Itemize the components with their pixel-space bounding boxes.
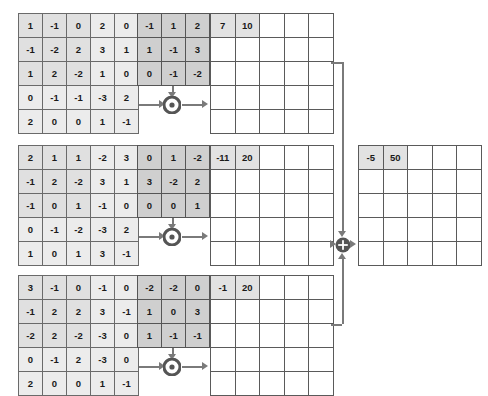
matrix-cell: 0 — [138, 194, 162, 218]
matrix-cell: 1 — [138, 300, 162, 324]
matrix-row: -22-2-30 — [19, 324, 139, 348]
matrix-cell: 1 — [19, 14, 43, 38]
matrix-cell: -1 — [115, 242, 139, 266]
arrow-head-right — [202, 100, 208, 108]
matrix-cell — [260, 170, 285, 194]
channel-1-input-matrix: 1-1020-1-223112-2100-1-1-322001-1 — [18, 13, 139, 134]
matrix-cell — [260, 14, 285, 38]
matrix-cell: -2 — [138, 276, 162, 300]
matrix-cell — [235, 194, 260, 218]
matrix-cell: -2 — [91, 146, 115, 170]
matrix-cell: 3 — [91, 300, 115, 324]
matrix-row: 2001-1 — [19, 110, 139, 134]
channel-2-input-matrix: 211-23-12-231-101-100-1-2-321013-1 — [18, 145, 139, 266]
matrix-row — [359, 170, 482, 194]
matrix-row: -120 — [211, 276, 334, 300]
matrix-cell: -2 — [43, 38, 67, 62]
matrix-cell: 1 — [19, 242, 43, 266]
matrix-cell: 0 — [67, 372, 91, 396]
matrix-cell — [235, 218, 260, 242]
matrix-cell: -1 — [211, 276, 236, 300]
matrix-cell — [211, 218, 236, 242]
matrix-cell — [309, 348, 334, 372]
matrix-cell — [260, 242, 285, 266]
matrix-cell: 0 — [43, 194, 67, 218]
matrix-row — [211, 38, 334, 62]
matrix-row: -1-2231 — [19, 38, 139, 62]
matrix-cell — [260, 194, 285, 218]
matrix-cell: 0 — [19, 218, 43, 242]
matrix-cell — [235, 170, 260, 194]
matrix-row — [211, 170, 334, 194]
matrix-row: 2001-1 — [19, 372, 139, 396]
matrix-cell: -1 — [115, 372, 139, 396]
matrix-cell: 0 — [115, 324, 139, 348]
matrix-row: -1223-1 — [19, 300, 139, 324]
matrix-cell — [383, 194, 408, 218]
matrix-cell: -1 — [19, 170, 43, 194]
matrix-cell: -2 — [162, 170, 186, 194]
matrix-cell — [383, 242, 408, 266]
channel-1-output-matrix: 710 — [210, 13, 334, 134]
matrix-cell: 1 — [162, 146, 186, 170]
matrix-cell — [359, 218, 384, 242]
matrix-cell: 3 — [186, 300, 210, 324]
matrix-cell: 0 — [43, 372, 67, 396]
matrix-cell: 2 — [43, 324, 67, 348]
matrix-row — [211, 62, 334, 86]
matrix-cell: -2 — [67, 170, 91, 194]
matrix-cell: -1 — [19, 38, 43, 62]
matrix-cell: 2 — [43, 300, 67, 324]
matrix-cell: 0 — [19, 348, 43, 372]
matrix-cell — [284, 372, 309, 396]
matrix-row — [211, 324, 334, 348]
matrix-cell: -1 — [162, 324, 186, 348]
matrix-cell — [284, 86, 309, 110]
matrix-cell — [235, 242, 260, 266]
matrix-cell — [309, 14, 334, 38]
matrix-cell: -1 — [43, 86, 67, 110]
matrix-cell — [284, 300, 309, 324]
matrix-row — [211, 372, 334, 396]
matrix-cell: 1 — [186, 194, 210, 218]
matrix-cell — [309, 372, 334, 396]
matrix-cell: -1 — [19, 194, 43, 218]
matrix-cell: 0 — [67, 14, 91, 38]
matrix-cell — [211, 86, 236, 110]
matrix-cell: 0 — [67, 110, 91, 134]
matrix-cell: 3 — [91, 170, 115, 194]
matrix-cell — [309, 146, 334, 170]
matrix-cell: -2 — [67, 324, 91, 348]
matrix-cell — [457, 242, 482, 266]
matrix-row: -2-20 — [138, 276, 210, 300]
matrix-cell — [284, 110, 309, 134]
matrix-cell: 0 — [115, 194, 139, 218]
matrix-cell: 2 — [19, 372, 43, 396]
matrix-cell — [235, 110, 260, 134]
matrix-cell — [309, 86, 334, 110]
matrix-cell: -5 — [359, 146, 384, 170]
matrix-cell: -1 — [115, 110, 139, 134]
matrix-cell — [432, 242, 457, 266]
matrix-row: 1-1-1 — [138, 324, 210, 348]
matrix-cell: -3 — [91, 86, 115, 110]
matrix-cell — [284, 170, 309, 194]
channel-2-kernel-matrix: 01-23-22001 — [137, 145, 210, 218]
channel-3-kernel-matrix: -2-201031-1-1 — [137, 275, 210, 348]
matrix-cell: -2 — [67, 62, 91, 86]
matrix-cell: 1 — [67, 146, 91, 170]
matrix-cell — [408, 194, 433, 218]
matrix-cell: -2 — [19, 324, 43, 348]
matrix-cell: 1 — [138, 38, 162, 62]
channel-2-output-matrix: -1120 — [210, 145, 334, 266]
matrix-cell — [309, 324, 334, 348]
matrix-cell: 1 — [67, 194, 91, 218]
matrix-cell: 20 — [235, 276, 260, 300]
matrix-cell: 0 — [162, 194, 186, 218]
matrix-cell: 1 — [91, 110, 115, 134]
matrix-cell: -1 — [186, 324, 210, 348]
matrix-row: 0-1-2-32 — [19, 218, 139, 242]
matrix-cell: -1 — [43, 276, 67, 300]
matrix-cell: -1 — [43, 348, 67, 372]
